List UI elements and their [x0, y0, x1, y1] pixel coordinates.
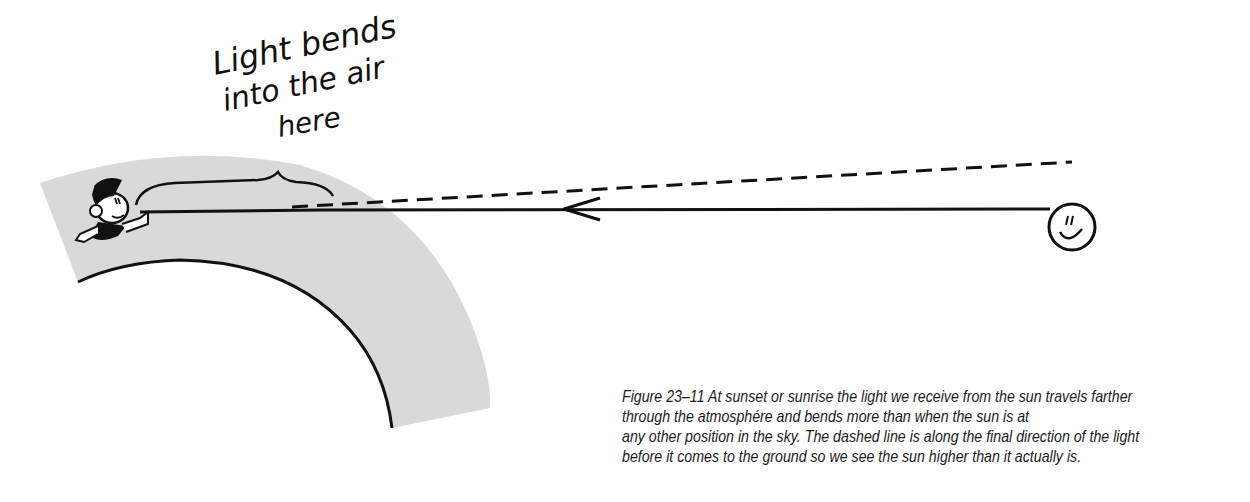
caption-line-2: through the atmosphére and bends more th…	[622, 406, 1250, 426]
smiling-sun-icon	[1049, 204, 1095, 250]
caption-line-1: Figure 23–11 At sunset or sunrise the li…	[622, 386, 1250, 406]
figure-caption: Figure 23–11 At sunset or sunrise the li…	[622, 386, 1250, 466]
caption-line-3: any other position in the sky. The dashe…	[622, 426, 1250, 446]
dashed-apparent-line	[292, 162, 1072, 207]
caption-line-4: before it comes to the ground so we see …	[622, 446, 1250, 466]
solid-light-ray	[140, 209, 1050, 212]
